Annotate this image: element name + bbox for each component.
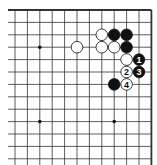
black-stone [121, 41, 133, 53]
white-stone-icon [108, 41, 120, 53]
star-point-icon [112, 120, 116, 124]
star-point-icon [38, 120, 42, 124]
white-stone-icon [96, 41, 108, 53]
white-stone-icon [71, 41, 83, 53]
black-stone-icon [121, 29, 133, 41]
white-stone [71, 41, 83, 53]
white-stone-icon [121, 54, 133, 66]
black-stone-icon [121, 41, 133, 53]
white-stone [96, 29, 108, 41]
black-stone [108, 79, 120, 91]
white-stone-icon [96, 29, 108, 41]
black-stone-icon [108, 79, 120, 91]
move-number-label: 2 [124, 67, 129, 77]
black-stone-move-1: 1 [133, 54, 145, 66]
move-number-label: 1 [136, 55, 141, 65]
star-point-icon [38, 45, 42, 49]
white-stone-move-4: 4 [121, 79, 133, 91]
black-stone [121, 29, 133, 41]
white-stone [96, 41, 108, 53]
black-stone-move-3: 3 [133, 66, 145, 78]
white-stone [121, 54, 133, 66]
move-number-label: 4 [124, 80, 129, 90]
white-stone [108, 41, 120, 53]
move-number-label: 3 [136, 67, 141, 77]
white-stone-move-2: 2 [121, 66, 133, 78]
black-stone [108, 29, 120, 41]
black-stone-icon [108, 29, 120, 41]
go-board-diagram: 1234 [0, 0, 157, 165]
